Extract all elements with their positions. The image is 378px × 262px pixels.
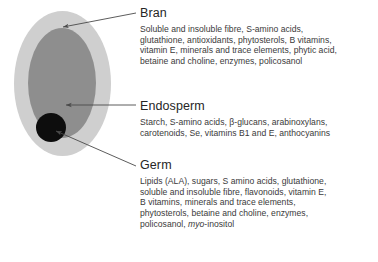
figure-caption bbox=[8, 252, 372, 259]
germ-heading: Germ bbox=[140, 158, 378, 173]
endosperm-description: Starch, S-amino acids, β-glucans, arabin… bbox=[140, 117, 378, 138]
bran-description: Soluble and insoluble fibre, S-amino aci… bbox=[140, 24, 378, 67]
germ-line-2: soluble and insoluble fibre, flavonoids,… bbox=[140, 187, 326, 197]
wheat-grain-illustration bbox=[0, 0, 140, 200]
germ-line-1: Lipids (ALA), sugars, S amino acids, glu… bbox=[140, 176, 326, 186]
section-germ: Germ Lipids (ALA), sugars, S amino acids… bbox=[140, 158, 378, 230]
bran-line-1: Soluble and insoluble fibre, S-amino aci… bbox=[140, 24, 303, 34]
bran-line-2: glutathione, antioxidants, phytosterols,… bbox=[140, 35, 332, 45]
endosperm-heading: Endosperm bbox=[140, 99, 378, 114]
inositol-suffix: -inositol bbox=[204, 219, 234, 229]
section-bran: Bran Soluble and insoluble fibre, S-amin… bbox=[140, 6, 378, 67]
germ-layer-shape bbox=[36, 113, 66, 142]
bran-line-4: betaine and choline, enzymes, policosano… bbox=[140, 56, 302, 66]
section-endosperm: Endosperm Starch, S-amino acids, β-gluca… bbox=[140, 99, 378, 138]
grain-anatomy-figure: Bran Soluble and insoluble fibre, S-amin… bbox=[0, 0, 378, 262]
bran-line-3: vitamin E, minerals and trace elements, … bbox=[140, 45, 337, 55]
bran-heading: Bran bbox=[140, 6, 378, 21]
germ-line-3: B vitamins, minerals and trace elements, bbox=[140, 197, 296, 207]
germ-description: Lipids (ALA), sugars, S amino acids, glu… bbox=[140, 176, 378, 230]
endosperm-line-2: carotenoids, Se, vitamins B1 and E, anth… bbox=[140, 128, 330, 138]
myo-italic-prefix: myo bbox=[188, 219, 204, 229]
germ-line-5: policosanol, bbox=[140, 219, 188, 229]
germ-line-4: phytosterols, betaine and choline, enzym… bbox=[140, 208, 308, 218]
endosperm-line-1: Starch, S-amino acids, β-glucans, arabin… bbox=[140, 117, 327, 127]
